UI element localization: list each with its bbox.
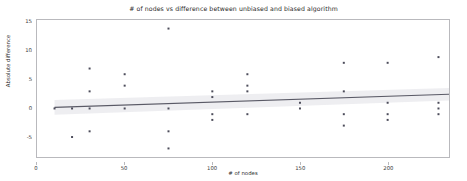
y-tick-mark: [29, 138, 32, 139]
scatter-point: [387, 102, 389, 104]
scatter-point: [387, 113, 389, 115]
scatter-point: [343, 113, 345, 115]
scatter-point: [89, 68, 91, 70]
scatter-point: [71, 107, 73, 109]
y-tick-mark: [29, 22, 32, 23]
scatter-point: [246, 90, 248, 92]
scatter-point: [89, 107, 91, 109]
scatter-point: [211, 96, 213, 98]
scatter-point: [167, 28, 169, 30]
scatter-point: [124, 85, 126, 87]
scatter-point: [437, 56, 439, 58]
confidence-band-group: [55, 88, 449, 115]
scatter-point: [387, 62, 389, 64]
plot-canvas: [37, 20, 449, 157]
y-tick-mark: [29, 109, 32, 110]
scatter-point: [211, 113, 213, 115]
x-tick-label: 0: [21, 166, 51, 171]
chart-title: # of nodes vs difference between unbiase…: [0, 4, 467, 13]
scatter-point: [246, 113, 248, 115]
scatter-point: [246, 73, 248, 75]
x-tick-mark: [212, 162, 213, 165]
y-tick-mark: [29, 51, 32, 52]
scatter-point: [299, 107, 301, 109]
scatter-point: [167, 147, 169, 149]
scatter-point: [343, 125, 345, 127]
scatter-point: [89, 90, 91, 92]
scatter-point: [89, 130, 91, 132]
scatter-point: [437, 107, 439, 109]
x-tick-label: 150: [285, 166, 315, 171]
x-tick-mark: [124, 162, 125, 165]
scatter-point: [71, 136, 73, 138]
scatter-point: [343, 62, 345, 64]
x-tick-mark: [36, 162, 37, 165]
scatter-point: [211, 119, 213, 121]
scatter-point: [437, 102, 439, 104]
x-tick-label: 50: [109, 166, 139, 171]
x-tick-label: 200: [373, 166, 403, 171]
scatter-point: [54, 107, 56, 109]
y-tick-mark: [29, 80, 32, 81]
scatter-plot-figure: # of nodes vs difference between unbiase…: [0, 0, 467, 181]
scatter-point: [437, 113, 439, 115]
x-tick-mark: [388, 162, 389, 165]
scatter-point: [167, 130, 169, 132]
scatter-point: [167, 107, 169, 109]
scatter-point: [299, 102, 301, 104]
scatter-points-group: [54, 28, 440, 150]
scatter-point: [246, 85, 248, 87]
x-tick-label: 100: [197, 166, 227, 171]
x-tick-mark: [300, 162, 301, 165]
y-axis-ticks: -5051015: [6, 19, 32, 158]
plot-area: [36, 19, 450, 158]
scatter-point: [211, 90, 213, 92]
confidence-band: [55, 88, 449, 115]
scatter-point: [387, 119, 389, 121]
scatter-point: [124, 73, 126, 75]
scatter-point: [124, 107, 126, 109]
scatter-point: [343, 90, 345, 92]
x-axis-ticks: 050100150200: [36, 162, 450, 172]
